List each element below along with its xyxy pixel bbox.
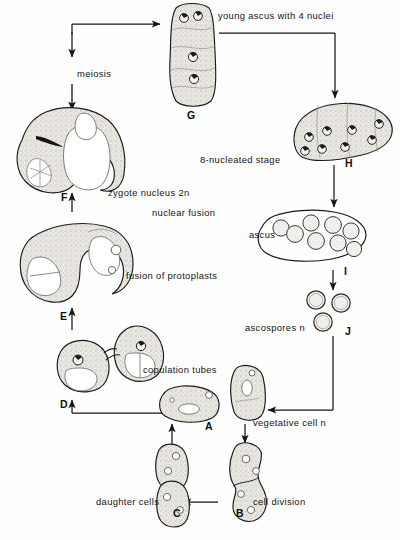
stage-letter-E: E <box>60 311 67 322</box>
label-daughter-cells: daughter cells <box>96 497 159 506</box>
stage-letter-J: J <box>345 326 351 337</box>
arrow-A-to-D <box>72 400 165 413</box>
cell-F-zygote <box>17 108 125 193</box>
label-zygote-nucleus: zygote nucleus 2n <box>108 188 190 197</box>
label-ascus: ascus <box>249 230 275 239</box>
label-young-ascus: young ascus with 4 nuclei <box>218 11 334 20</box>
arrow-G-to-H <box>219 33 335 98</box>
label-fusion-protoplasts: fusion of protoplasts <box>126 271 217 280</box>
arrow-F-to-G <box>72 24 160 110</box>
label-cell-division: cell division <box>253 497 306 506</box>
stage-letter-A: A <box>205 421 213 432</box>
label-copulation-tubes: copulation tubes <box>143 365 217 374</box>
figure-canvas: young ascus with 4 nuclei meiosis 8-nucl… <box>0 0 400 540</box>
cell-vegetative-n <box>231 365 266 420</box>
label-vegetative-cell: vegetative cell n <box>253 418 326 427</box>
cell-J-ascospores <box>307 291 350 331</box>
cell-G-young-ascus <box>170 4 216 107</box>
cell-E-protoplast-fusion <box>20 224 133 303</box>
stage-letter-G: G <box>187 110 195 121</box>
label-ascospores: ascospores n <box>245 323 305 332</box>
cell-H-eight-nucleated <box>294 103 392 161</box>
label-nuclear-fusion: nuclear fusion <box>152 208 215 217</box>
stage-letter-B: B <box>236 508 244 519</box>
stage-letter-H: H <box>345 158 353 169</box>
label-meiosis: meiosis <box>77 69 111 78</box>
label-eight-nucleated: 8-nucleated stage <box>200 155 280 164</box>
stage-letter-D: D <box>60 399 68 410</box>
stage-letter-F: F <box>61 192 67 203</box>
arrow-J-to-vegetative <box>268 336 333 410</box>
stage-letter-I: I <box>344 266 347 277</box>
cell-D-conjugating-cells <box>57 326 163 392</box>
cell-A-vegetative <box>160 386 219 422</box>
stage-letter-C: C <box>173 508 181 519</box>
